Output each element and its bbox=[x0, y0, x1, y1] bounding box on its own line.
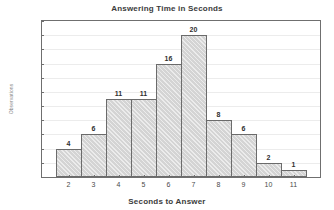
x-axis-tick-mark bbox=[219, 175, 220, 177]
histogram-bar[interactable] bbox=[206, 120, 232, 177]
y-axis-tick-mark bbox=[42, 64, 44, 65]
bar-value-label: 8 bbox=[217, 111, 221, 118]
y-axis-tick-mark bbox=[42, 92, 44, 93]
x-axis-tick-label: 8 bbox=[217, 181, 221, 188]
histogram-bar[interactable] bbox=[56, 149, 82, 177]
bar-value-label: 11 bbox=[140, 90, 147, 97]
x-axis-title: Seconds to Answer bbox=[0, 197, 334, 206]
y-axis-tick-mark bbox=[42, 35, 44, 36]
y-axis-tick-mark bbox=[42, 134, 44, 135]
x-axis-tick-mark bbox=[144, 175, 145, 177]
x-axis-tick-label: 4 bbox=[117, 181, 121, 188]
x-axis-tick-mark bbox=[269, 175, 270, 177]
y-axis-tick-mark bbox=[42, 106, 44, 107]
x-axis-tick-label: 11 bbox=[290, 181, 297, 188]
histogram-bar[interactable] bbox=[181, 35, 207, 177]
plot-area bbox=[41, 20, 321, 178]
bar-value-label: 1 bbox=[292, 161, 296, 168]
x-axis-tick-mark bbox=[119, 175, 120, 177]
bar-value-label: 2 bbox=[267, 154, 271, 161]
histogram-bar[interactable] bbox=[106, 99, 132, 177]
y-axis-tick-mark bbox=[42, 78, 44, 79]
x-axis-tick-label: 6 bbox=[167, 181, 171, 188]
chart-figure: Answering Time in Seconds Observations 0… bbox=[0, 0, 334, 210]
bar-value-label: 6 bbox=[242, 125, 246, 132]
y-axis-tick-mark bbox=[42, 49, 44, 50]
y-axis-tick-mark bbox=[42, 120, 44, 121]
x-axis-tick-mark bbox=[194, 175, 195, 177]
bar-value-label: 20 bbox=[190, 26, 198, 33]
histogram-bar[interactable] bbox=[156, 64, 182, 177]
x-axis-tick-mark bbox=[69, 175, 70, 177]
y-axis-tick-mark bbox=[42, 21, 44, 22]
x-axis-tick-label: 2 bbox=[67, 181, 71, 188]
bar-value-label: 4 bbox=[67, 140, 71, 147]
y-axis-title: Observations bbox=[8, 64, 14, 134]
x-axis-tick-mark bbox=[94, 175, 95, 177]
bar-value-label: 16 bbox=[165, 55, 173, 62]
x-axis-tick-label: 3 bbox=[92, 181, 96, 188]
x-axis-tick-label: 9 bbox=[242, 181, 246, 188]
x-axis-tick-label: 7 bbox=[192, 181, 196, 188]
histogram-bar[interactable] bbox=[81, 134, 107, 177]
x-axis-tick-label: 5 bbox=[142, 181, 146, 188]
histogram-bar[interactable] bbox=[231, 134, 257, 177]
bar-value-label: 6 bbox=[92, 125, 96, 132]
x-axis-tick-mark bbox=[244, 175, 245, 177]
x-axis-tick-mark bbox=[294, 175, 295, 177]
bar-value-label: 11 bbox=[115, 90, 122, 97]
y-axis-tick-mark bbox=[42, 163, 44, 164]
chart-title: Answering Time in Seconds bbox=[0, 4, 334, 13]
x-axis-tick-label: 10 bbox=[265, 181, 273, 188]
histogram-bar[interactable] bbox=[131, 99, 157, 177]
y-axis-tick-mark bbox=[42, 149, 44, 150]
y-axis-tick-mark bbox=[42, 177, 44, 178]
x-axis-tick-mark bbox=[169, 175, 170, 177]
